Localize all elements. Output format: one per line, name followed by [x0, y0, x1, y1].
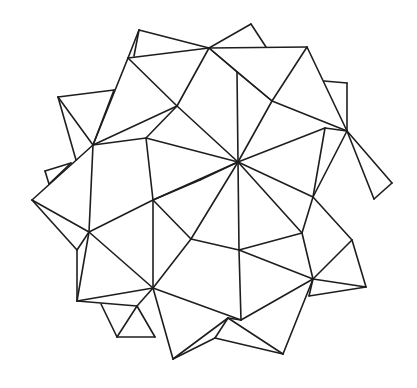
edge — [238, 101, 272, 162]
edge — [77, 301, 137, 306]
edge — [89, 145, 93, 232]
edge — [101, 304, 117, 337]
polyhedron-edges — [32, 24, 392, 359]
edge — [32, 200, 89, 232]
edge — [313, 197, 352, 240]
edge — [347, 131, 374, 199]
edge — [228, 318, 283, 354]
edge — [191, 239, 239, 250]
edge — [146, 138, 153, 200]
edge — [215, 338, 283, 354]
edge — [128, 58, 177, 106]
edge — [153, 288, 241, 320]
edge — [272, 101, 347, 131]
edge — [153, 200, 191, 239]
edge — [77, 288, 153, 301]
edge — [347, 131, 392, 183]
edge — [238, 162, 313, 197]
edge — [238, 128, 325, 162]
edge — [117, 306, 137, 337]
edge — [215, 318, 228, 338]
edge — [173, 338, 215, 359]
edge — [239, 250, 241, 320]
edge — [209, 24, 251, 48]
edge — [146, 106, 177, 138]
edge — [32, 200, 77, 250]
edge — [128, 30, 139, 58]
edge — [237, 72, 238, 162]
edge — [32, 145, 93, 200]
edge — [313, 240, 352, 279]
edge — [58, 90, 114, 97]
edge — [128, 48, 209, 58]
edge — [272, 47, 307, 101]
edge — [137, 306, 155, 337]
edge — [89, 232, 153, 288]
edge — [177, 48, 209, 106]
edge — [153, 288, 173, 359]
edge — [89, 200, 153, 232]
edge — [374, 183, 392, 199]
edge — [283, 279, 313, 354]
polyhedron-line-drawing — [0, 0, 417, 388]
edge — [209, 47, 307, 48]
edge — [239, 233, 302, 250]
edge — [241, 279, 313, 320]
edge — [58, 97, 76, 160]
edge — [309, 287, 366, 296]
edge — [58, 97, 93, 145]
edge — [251, 24, 266, 47]
edge — [324, 81, 347, 83]
edge — [45, 171, 49, 184]
edge — [139, 30, 209, 48]
edge — [313, 279, 366, 287]
edge — [302, 233, 313, 279]
edge — [238, 162, 302, 233]
edge — [239, 250, 313, 279]
edge — [302, 197, 313, 233]
edge — [153, 162, 238, 200]
edge — [153, 239, 191, 288]
edge — [209, 48, 272, 101]
edge — [307, 47, 347, 131]
edge — [238, 162, 239, 250]
edge — [352, 240, 366, 287]
